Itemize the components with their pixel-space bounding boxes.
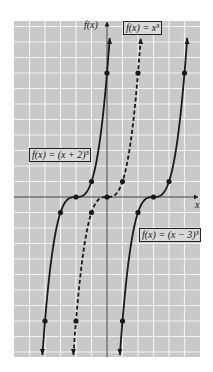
data-point [42, 318, 47, 323]
data-point [58, 210, 63, 215]
x-axis-label: x [195, 199, 199, 210]
cubic-function-graph [0, 0, 213, 372]
data-point [135, 70, 140, 75]
data-point [120, 318, 125, 323]
data-point [151, 194, 156, 199]
data-point [104, 194, 109, 199]
label-box-right-shift: f(x) = (x − 3)³ [139, 228, 201, 242]
data-point [89, 210, 94, 215]
label-box-left-shift: f(x) = (x + 2)³ [29, 148, 91, 162]
data-point [104, 70, 109, 75]
y-axis-label: f(x) [84, 19, 98, 30]
label-box-cubic: f(x) = x³ [123, 21, 162, 35]
data-point [89, 179, 94, 184]
data-point [166, 179, 171, 184]
data-point [73, 194, 78, 199]
data-point [73, 318, 78, 323]
data-point [135, 210, 140, 215]
data-point [182, 70, 187, 75]
data-point [120, 179, 125, 184]
